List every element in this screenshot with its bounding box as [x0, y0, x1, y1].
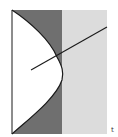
axis-label: t [111, 126, 114, 134]
light-region [62, 10, 107, 134]
diagram: t [0, 0, 118, 137]
